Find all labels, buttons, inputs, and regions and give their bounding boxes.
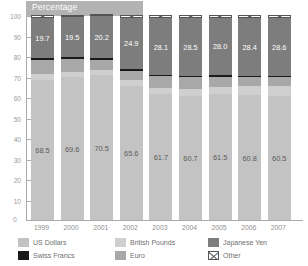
bar-segment-eur-2002[interactable] [120, 71, 143, 80]
bar-segment-usd-1999[interactable]: 68.5 [31, 80, 54, 220]
bar-value-label: 68.5 [31, 145, 54, 154]
bar-2001[interactable]: 20.270.5 [90, 14, 113, 220]
bar-2004[interactable]: 28.560.7 [179, 15, 202, 220]
bar-segment-eur-2005[interactable] [209, 77, 232, 87]
legend-item-other[interactable]: Other [208, 251, 241, 260]
bar-segment-usd-2005[interactable]: 61.5 [209, 94, 232, 220]
legend-item-british-pounds[interactable]: British Pounds [115, 238, 175, 247]
bar-value-label: 19.5 [61, 33, 84, 42]
legend-item-swiss-francs[interactable]: Swiss Francs [18, 251, 75, 260]
legend-label: Swiss Francs [33, 252, 75, 259]
jpy-swatch [208, 238, 219, 247]
bar-segment-jpy-2005[interactable]: 28.0 [209, 18, 232, 75]
bar-segment-jpy-2000[interactable]: 19.5 [61, 17, 84, 57]
plot-area: 10203040506070809010019.768.519.569.620.… [26, 16, 303, 221]
y-axis-tick-0: 0 [13, 216, 17, 223]
bar-2002[interactable]: 24.965.6 [120, 15, 143, 220]
eur-swatch [115, 251, 126, 260]
bar-segment-usd-2000[interactable]: 69.6 [61, 77, 84, 220]
legend-label: British Pounds [130, 239, 175, 246]
bar-segment-usd-2002[interactable]: 65.6 [120, 86, 143, 220]
y-tick-label: 90 [14, 33, 21, 40]
other-swatch [208, 251, 219, 260]
y-tick-label: 50 [14, 115, 21, 122]
bar-segment-eur-2001[interactable] [90, 60, 113, 70]
y-tick-label: 100 [10, 13, 21, 20]
gbp-swatch [115, 238, 126, 247]
bar-value-label: 24.9 [120, 39, 143, 48]
bar-value-label: 28.4 [238, 42, 261, 51]
bar-segment-eur-2004[interactable] [179, 77, 202, 89]
bar-value-label: 28.1 [149, 42, 172, 51]
bar-2005[interactable]: 28.061.5 [209, 15, 232, 220]
bar-segment-usd-2004[interactable]: 60.7 [179, 96, 202, 220]
y-tick-label: 10 [14, 197, 21, 204]
bar-value-label: 69.6 [61, 144, 84, 153]
bar-segment-usd-2006[interactable]: 60.8 [238, 95, 261, 220]
chart-legend: US DollarsBritish PoundsJapanese Yen Swi… [18, 238, 302, 264]
bar-segment-eur-2000[interactable] [61, 59, 84, 71]
legend-item-japanese-yen[interactable]: Japanese Yen [208, 238, 267, 247]
chart-container: Percentage 10203040506070809010019.768.5… [0, 0, 308, 266]
bar-2000[interactable]: 19.569.6 [61, 15, 84, 220]
bar-value-label: 70.5 [90, 143, 113, 152]
bar-value-label: 60.7 [179, 153, 202, 162]
bar-segment-jpy-2004[interactable]: 28.5 [179, 18, 202, 76]
bar-value-label: 20.2 [90, 32, 113, 41]
bar-value-label: 60.5 [268, 153, 291, 162]
y-tick-label: 70 [14, 74, 21, 81]
bar-value-label: 28.0 [209, 42, 232, 51]
legend-label: Euro [130, 252, 145, 259]
bar-value-label: 60.8 [238, 153, 261, 162]
bar-segment-eur-1999[interactable] [31, 60, 54, 73]
legend-row-2: Swiss FrancsEuroOther [18, 251, 302, 264]
y-tick-label: 80 [14, 54, 21, 61]
y-tick-label: 60 [14, 95, 21, 102]
bar-segment-gbp-2004[interactable] [179, 89, 202, 96]
bar-segment-eur-2007[interactable] [268, 77, 291, 86]
bar-2003[interactable]: 28.161.7 [149, 15, 172, 220]
bar-value-label: 61.5 [209, 152, 232, 161]
bar-segment-jpy-2007[interactable]: 28.6 [268, 18, 291, 77]
bar-segment-jpy-1999[interactable]: 19.7 [31, 18, 54, 58]
bar-segment-usd-2007[interactable]: 60.5 [268, 96, 291, 220]
bar-segment-eur-2006[interactable] [238, 77, 261, 87]
legend-label: Japanese Yen [223, 239, 267, 246]
bar-segment-gbp-2006[interactable] [238, 86, 261, 95]
legend-label: Other [223, 252, 241, 259]
bar-segment-usd-2003[interactable]: 61.7 [149, 94, 172, 220]
bar-segment-jpy-2006[interactable]: 28.4 [238, 18, 261, 76]
bar-2007[interactable]: 28.660.5 [268, 15, 291, 220]
y-tick-label: 30 [14, 156, 21, 163]
bar-segment-eur-2003[interactable] [149, 76, 172, 88]
bar-value-label: 19.7 [31, 34, 54, 43]
bar-segment-gbp-2007[interactable] [268, 86, 291, 96]
y-tick-label: 40 [14, 136, 21, 143]
x-axis-label-2007: 2007 [258, 224, 298, 231]
bar-segment-jpy-2001[interactable]: 20.2 [90, 16, 113, 57]
legend-item-euro[interactable]: Euro [115, 251, 145, 260]
legend-row-1: US DollarsBritish PoundsJapanese Yen [18, 238, 302, 251]
chart-title-band: Percentage [26, 1, 143, 16]
bar-segment-gbp-2005[interactable] [209, 87, 232, 94]
bar-value-label: 28.6 [268, 43, 291, 52]
y-tick-label: 20 [14, 177, 21, 184]
bar-segment-usd-2001[interactable]: 70.5 [90, 75, 113, 220]
bar-segment-jpy-2003[interactable]: 28.1 [149, 18, 172, 76]
usd-swatch [18, 238, 29, 247]
legend-item-us-dollars[interactable]: US Dollars [18, 238, 66, 247]
page-title: Percentage [32, 2, 77, 12]
bar-value-label: 61.7 [149, 152, 172, 161]
bar-1999[interactable]: 19.768.5 [31, 15, 54, 220]
chf-swatch [18, 251, 29, 260]
bar-value-label: 65.6 [120, 148, 143, 157]
bar-value-label: 28.5 [179, 42, 202, 51]
bar-2006[interactable]: 28.460.8 [238, 15, 261, 220]
bar-segment-jpy-2002[interactable]: 24.9 [120, 18, 143, 69]
legend-label: US Dollars [33, 239, 66, 246]
